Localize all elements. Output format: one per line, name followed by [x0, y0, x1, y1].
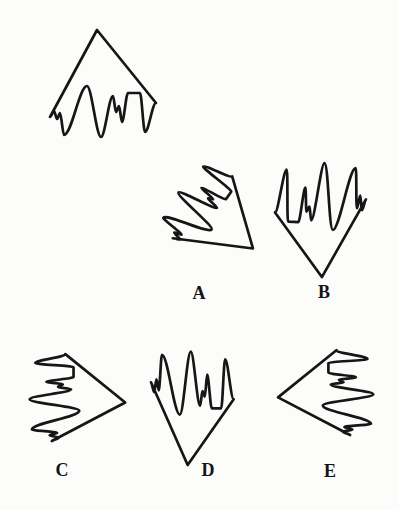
figure-page: A B C D E: [0, 0, 399, 510]
option-shape-d: [151, 352, 234, 465]
option-shape-a: [155, 156, 280, 279]
option-shape-a-outline: [155, 156, 280, 279]
shape-layer: [30, 30, 374, 465]
rotation-figure-canvas: [0, 0, 399, 510]
target-shape-outline: [50, 30, 156, 137]
option-shape-b: [272, 161, 368, 279]
option-shape-d-outline: [151, 352, 234, 465]
target-shape: [50, 30, 156, 137]
option-label-b: B: [318, 282, 330, 303]
option-label-d: D: [202, 460, 215, 481]
option-label-a: A: [193, 283, 206, 304]
option-shape-c-outline: [30, 354, 126, 441]
option-shape-c: [30, 354, 126, 441]
option-shape-b-outline: [272, 161, 368, 279]
option-shape-e-outline: [278, 350, 373, 435]
option-label-c: C: [56, 460, 69, 481]
option-label-e: E: [324, 461, 336, 482]
option-shape-e: [278, 350, 373, 435]
